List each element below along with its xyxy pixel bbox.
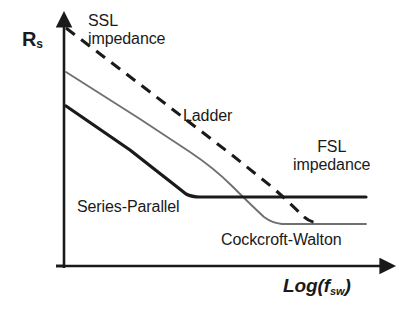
x-axis-label-suffix: ): [344, 275, 350, 296]
annotation-fsl-line2: impedance: [293, 156, 370, 174]
x-axis-label-subscript: sw: [330, 285, 344, 297]
annotation-ssl-line2: impedance: [88, 30, 165, 48]
x-axis-label-prefix: Log(: [283, 275, 324, 296]
y-axis-label-subscript: s: [36, 37, 43, 51]
annotation-fsl-impedance: FSL impedance: [293, 138, 370, 174]
x-axis-label: Log(fsw): [283, 275, 351, 297]
chart-figure: Rs Log(fsw) SSL impedance FSL impedance …: [0, 0, 411, 311]
annotation-series-parallel: Series-Parallel: [77, 198, 180, 216]
annotation-cockcroft-walton: Cockcroft-Walton: [221, 231, 342, 249]
annotation-ssl-line1: SSL: [88, 12, 165, 30]
annotation-fsl-line1: FSL: [293, 138, 370, 156]
y-axis-label-main: R: [22, 28, 36, 50]
y-axis-label: Rs: [22, 28, 43, 51]
annotation-ladder: Ladder: [183, 107, 232, 125]
curve-ladder-ssl-dashed: [66, 28, 318, 223]
annotation-ssl-impedance: SSL impedance: [88, 12, 165, 48]
